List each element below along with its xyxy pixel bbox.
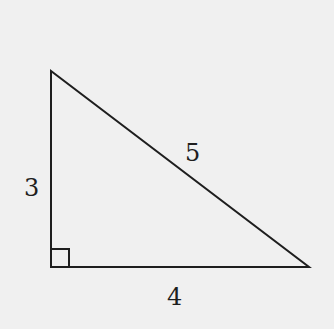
right-triangle-figure: 3 5 4	[0, 0, 334, 329]
right-angle-marker	[51, 249, 69, 267]
triangle-outline	[51, 71, 309, 267]
label-horizontal-leg: 4	[167, 283, 182, 311]
label-vertical-leg: 3	[24, 174, 39, 202]
diagram-canvas: 3 5 4	[0, 0, 334, 329]
label-hypotenuse: 5	[185, 139, 200, 167]
